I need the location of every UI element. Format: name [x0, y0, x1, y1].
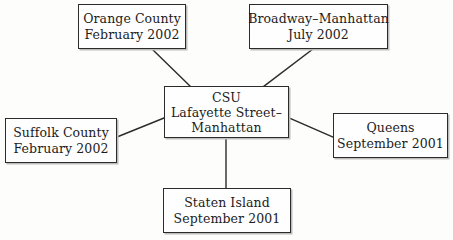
node-orange-county-line-2: February 2002	[85, 27, 180, 42]
node-queens-line-2: September 2001	[337, 136, 444, 151]
node-staten-island: Staten Island September 2001	[163, 188, 291, 233]
node-suffolk-county-line-1: Suffolk County	[13, 125, 109, 140]
node-broadway-manhattan-line-2: July 2002	[288, 27, 349, 42]
node-suffolk-county: Suffolk County February 2002	[5, 118, 117, 163]
connector-orange-county-to-csu	[152, 49, 191, 87]
node-csu-center-line-3: Manhattan	[191, 120, 261, 135]
connector-suffolk-county-to-csu	[117, 118, 164, 137]
node-csu-center: CSU Lafayette Street– Manhattan	[164, 86, 289, 138]
node-csu-center-line-2: Lafayette Street–	[171, 105, 282, 120]
connector-queens-to-csu	[289, 118, 333, 137]
diagram-canvas: Orange County February 2002 Broadway–Man…	[0, 0, 453, 240]
node-broadway-manhattan-line-1: Broadway–Manhattan	[248, 11, 389, 26]
node-queens: Queens September 2001	[333, 113, 448, 158]
node-broadway-manhattan: Broadway–Manhattan July 2002	[249, 4, 388, 49]
node-orange-county-line-1: Orange County	[83, 11, 181, 26]
node-orange-county: Orange County February 2002	[78, 4, 186, 49]
node-queens-line-1: Queens	[366, 120, 414, 135]
connector-broadway-manhattan-to-csu	[263, 49, 313, 87]
node-staten-island-line-2: September 2001	[174, 211, 281, 226]
node-staten-island-line-1: Staten Island	[184, 195, 270, 210]
node-suffolk-county-line-2: February 2002	[14, 141, 109, 156]
node-csu-center-line-1: CSU	[212, 90, 241, 105]
